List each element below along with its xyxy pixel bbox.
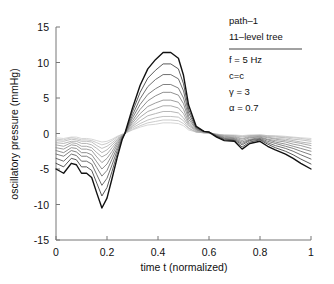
oscillatory-pressure-chart: -15-10-5051015 00.20.40.60.81 oscillator…	[0, 0, 334, 284]
data-series-group	[56, 53, 311, 208]
x-tick-label: 0.8	[253, 246, 268, 258]
x-tick-label: 0	[53, 246, 59, 258]
x-axis-tick-labels: 00.20.40.60.81	[53, 246, 314, 258]
x-tick-label: 0.6	[202, 246, 217, 258]
series-line-level-3	[56, 116, 311, 148]
legend-line-path: path–1	[229, 15, 258, 26]
y-tick-label: 15	[37, 21, 49, 33]
x-tick-label: 0.2	[100, 246, 115, 258]
series-line-level-1	[56, 123, 311, 142]
series-line-level-11	[56, 53, 311, 208]
series-line-level-10	[56, 64, 311, 196]
series-line-level-9	[56, 75, 311, 186]
x-axis-label: time t (normalized)	[141, 261, 228, 273]
y-tick-label: 5	[43, 92, 49, 104]
legend-line-frequency: f = 5 Hz	[229, 54, 262, 65]
y-axis-label: oscillatory pressure (mmHg)	[8, 68, 20, 199]
plot-area	[56, 27, 311, 240]
y-axis-tick-labels: -15-10-5051015	[34, 21, 49, 246]
y-tick-label: 0	[43, 128, 49, 140]
x-axis-ticks	[56, 236, 311, 240]
series-line-level-6	[56, 100, 311, 162]
y-tick-label: -15	[34, 234, 49, 246]
legend-line-gamma: γ = 3	[229, 86, 250, 97]
series-line-level-7	[56, 92, 311, 169]
legend-line-alpha: α = 0.7	[229, 102, 259, 113]
x-tick-label: 0.4	[151, 246, 166, 258]
x-tick-label: 1	[308, 246, 314, 258]
legend-line-c: c=c	[229, 70, 244, 81]
y-axis-ticks	[56, 27, 60, 240]
legend-box: path–1 11–level tree f = 5 Hz c=c γ = 3 …	[229, 15, 302, 113]
chart-root: -15-10-5051015 00.20.40.60.81 oscillator…	[0, 0, 334, 284]
y-tick-label: 10	[37, 57, 49, 69]
y-tick-label: -10	[34, 199, 49, 211]
y-tick-label: -5	[40, 163, 49, 175]
legend-line-tree: 11–level tree	[229, 31, 283, 42]
series-line-level-8	[56, 85, 311, 177]
